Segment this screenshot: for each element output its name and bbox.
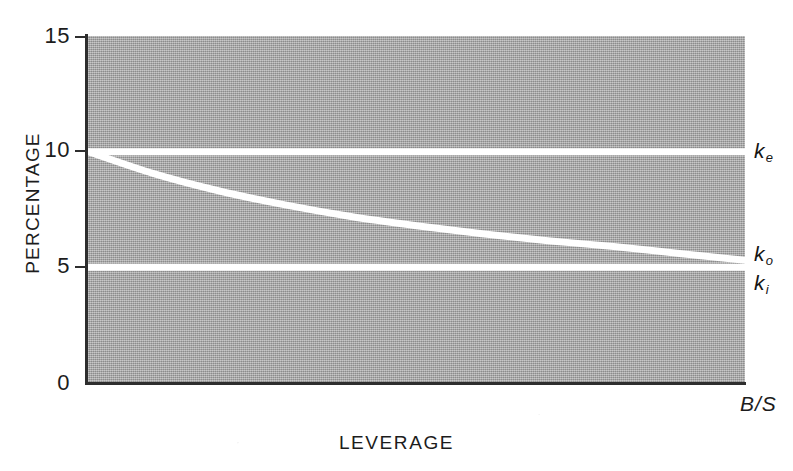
y-tick-15 bbox=[75, 36, 87, 38]
series-line-ko bbox=[88, 152, 745, 261]
series-label-ke-sub: e bbox=[766, 150, 774, 165]
series-layer bbox=[88, 36, 745, 383]
y-tick-5 bbox=[75, 266, 87, 268]
y-tick-label-0-text: 0 bbox=[28, 370, 70, 396]
y-axis-line bbox=[85, 34, 88, 385]
series-label-ki-sub: i bbox=[766, 282, 769, 297]
y-axis-title: PERCENTAGE bbox=[22, 108, 44, 298]
y-tick-label-15: 15 bbox=[28, 23, 70, 49]
series-label-ke: ke bbox=[754, 139, 772, 163]
series-label-ko-base: k bbox=[754, 242, 765, 265]
chart-figure: 15 10 5 0 PERCENTAGE LEVERAGE B/S ke ko … bbox=[0, 0, 793, 471]
y-tick-label-0: 0 bbox=[28, 370, 70, 396]
x-axis-line bbox=[85, 382, 746, 385]
y-tick-10 bbox=[75, 150, 87, 152]
x-axis-title: LEVERAGE bbox=[0, 432, 793, 454]
series-label-ki: ki bbox=[754, 271, 768, 295]
series-label-ko: ko bbox=[754, 242, 772, 266]
series-label-ko-sub: o bbox=[766, 253, 774, 268]
x-axis-end-label: B/S bbox=[740, 392, 777, 416]
y-tick-label-15-text: 15 bbox=[28, 23, 70, 49]
plot-area bbox=[88, 36, 745, 383]
series-label-ki-base: k bbox=[754, 271, 765, 294]
series-label-ke-base: k bbox=[754, 139, 765, 162]
